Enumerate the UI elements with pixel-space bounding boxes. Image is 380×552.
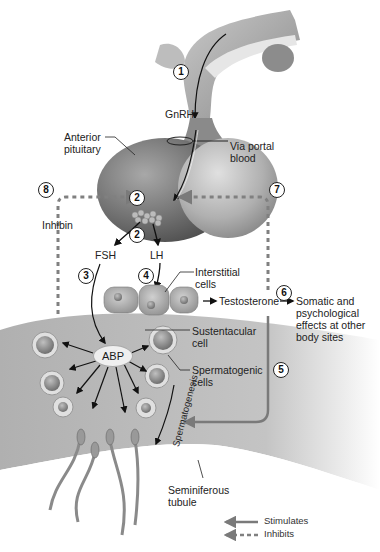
testosterone-label: Testosterone [219, 295, 279, 307]
step-5-marker: 5 [273, 362, 289, 378]
step-2-marker: 2 [129, 190, 145, 206]
step-4-marker: 4 [138, 268, 154, 284]
legend-stimulates-label: Stimulates [264, 515, 308, 526]
interstitial-cells-label: Interstitial cells [195, 266, 255, 290]
sustentacular-cell-label: Sustentacular cell [192, 325, 267, 349]
fsh-label: FSH [95, 249, 116, 261]
seminiferous-tubule-label: Seminiferous tubule [168, 484, 248, 508]
abp-label: ABP [93, 345, 133, 367]
step-8-marker: 8 [38, 182, 54, 198]
step-1-marker: 1 [173, 64, 189, 80]
diagram-artwork [0, 0, 380, 552]
step-7-marker: 7 [269, 182, 285, 198]
legend-inhibits-label: Inhibits [264, 528, 294, 539]
interstitial-cells [104, 285, 198, 315]
gnrh-label: GnRH [165, 108, 194, 120]
step-3-marker: 3 [78, 268, 94, 284]
somatic-effects-label: Somatic and psychological effects at oth… [296, 295, 380, 343]
legend-stimulates: Stimulates [264, 515, 308, 526]
via-portal-blood-label: Via portal blood [230, 140, 290, 164]
spermatogenic-cells-label: Spermatogenic cells [192, 364, 267, 388]
inhibin-label: Inhibin [42, 219, 73, 231]
lh-label: LH [150, 249, 163, 261]
legend-inhibits: Inhibits [264, 528, 294, 539]
anterior-pituitary-label: Anterior pituitary [64, 131, 114, 155]
step-2b-marker: 2 [129, 227, 145, 243]
